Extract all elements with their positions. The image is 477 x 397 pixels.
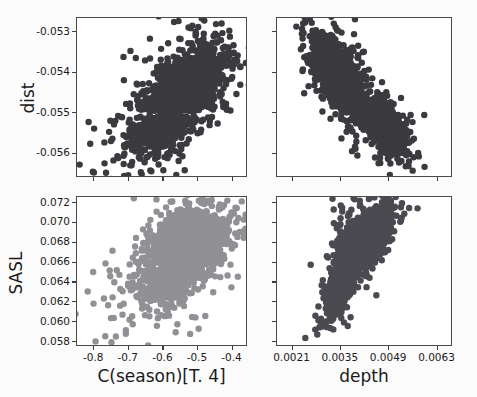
scatter-canvas-sasl-vs-depth [277,197,452,346]
ytick-br-5 [272,301,276,302]
ytick-tr-3 [272,153,276,154]
xtick-bl-2 [162,346,163,350]
xtick-tl-2 [162,177,163,181]
ytick-label-tl-1: -0.054 [10,65,70,77]
ytick-tr-2 [272,112,276,113]
xtick-tl-3 [197,177,198,181]
scatter-canvas-dist-vs-depth [277,18,452,177]
xtick-br-2 [388,346,389,350]
xtick-bl-1 [128,346,129,350]
xtick-br-3 [437,346,438,350]
xtick-tr-0 [292,177,293,181]
xtick-br-0 [292,346,293,350]
xtick-bl-0 [93,346,94,350]
ytick-tl-1 [72,72,76,73]
ytick-tl-3 [72,153,76,154]
panel-dist-vs-depth [276,17,452,177]
ytick-label-tl-3: -0.056 [10,146,70,158]
ytick-bl-5 [72,301,76,302]
scatter-canvas-dist-vs-season [77,18,247,177]
scatter-plot-matrix: dist SASL C(season)[T. 4] depth -0.053-0… [0,0,477,397]
xtick-tr-2 [388,177,389,181]
ytick-bl-1 [72,222,76,223]
ytick-bl-7 [72,341,76,342]
ytick-tl-0 [72,31,76,32]
panel-dist-vs-season [76,17,247,177]
ytick-label-bl-4: 0.064 [10,275,70,287]
ytick-bl-0 [72,202,76,203]
ytick-label-bl-0: 0.072 [10,196,70,208]
ytick-tr-0 [272,31,276,32]
xtick-bl-3 [197,346,198,350]
ytick-br-7 [272,341,276,342]
panel-sasl-vs-depth [276,196,452,346]
xtick-tl-0 [93,177,94,181]
x-axis-label-season: C(season)[T. 4] [76,366,247,386]
xtick-label-br-3: 0.0063 [403,351,471,363]
scatter-canvas-sasl-vs-season [77,197,247,346]
xtick-tr-1 [340,177,341,181]
ytick-label-bl-6: 0.060 [10,315,70,327]
xtick-tl-1 [128,177,129,181]
ytick-br-0 [272,202,276,203]
ytick-br-1 [272,222,276,223]
ytick-br-3 [272,262,276,263]
ytick-br-6 [272,321,276,322]
ytick-bl-3 [72,262,76,263]
ytick-bl-2 [72,242,76,243]
ytick-label-bl-3: 0.066 [10,255,70,267]
xtick-br-1 [340,346,341,350]
ytick-tr-1 [272,72,276,73]
ytick-tl-2 [72,112,76,113]
ytick-label-bl-1: 0.070 [10,215,70,227]
ytick-label-bl-7: 0.058 [10,335,70,347]
xtick-tl-4 [232,177,233,181]
ytick-br-4 [272,281,276,282]
ytick-bl-6 [72,321,76,322]
xtick-label-bl-4: -0.4 [198,351,266,363]
ytick-bl-4 [72,281,76,282]
xtick-bl-4 [232,346,233,350]
ytick-label-tl-2: -0.055 [10,106,70,118]
ytick-label-bl-2: 0.068 [10,235,70,247]
panel-sasl-vs-season [76,196,247,346]
ytick-label-tl-0: -0.053 [10,25,70,37]
x-axis-label-depth: depth [276,366,452,386]
xtick-tr-3 [437,177,438,181]
ytick-label-bl-5: 0.062 [10,295,70,307]
ytick-br-2 [272,242,276,243]
